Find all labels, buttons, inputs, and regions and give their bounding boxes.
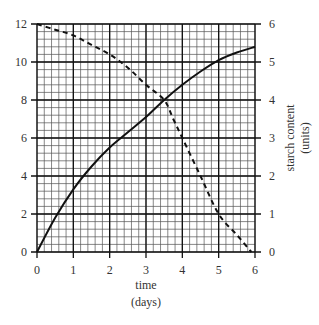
x-tick-label: 2	[107, 263, 113, 277]
y-tick-label: 10	[15, 55, 27, 69]
x-tick-label: 3	[143, 263, 149, 277]
y2-axis-label: starch content	[283, 104, 297, 172]
y2-tick-label: 6	[269, 17, 275, 31]
x-axis-label: time	[135, 278, 156, 292]
y2-tick-label: 1	[269, 207, 275, 221]
y2-tick-label: 2	[269, 169, 275, 183]
y2-tick-label: 5	[269, 55, 275, 69]
y2-tick-label: 3	[269, 131, 275, 145]
y-tick-label: 6	[21, 131, 27, 145]
x-tick-label: 6	[252, 263, 258, 277]
y2-tick-label: 0	[269, 245, 275, 259]
x-axis-units: (days)	[131, 295, 161, 309]
axis-ticks: 01234560246810120123456	[15, 17, 275, 277]
y-tick-label: 4	[21, 169, 27, 183]
y-tick-label: 8	[21, 93, 27, 107]
x-tick-label: 4	[179, 263, 185, 277]
y-tick-label: 12	[15, 17, 27, 31]
x-tick-label: 5	[216, 263, 222, 277]
y2-axis-units: (units)	[298, 122, 312, 153]
chart: 01234560246810120123456 time (days) star…	[0, 0, 319, 325]
y-tick-label: 2	[21, 207, 27, 221]
y2-tick-label: 4	[269, 93, 275, 107]
x-tick-label: 1	[70, 263, 76, 277]
x-tick-label: 0	[34, 263, 40, 277]
y-tick-label: 0	[21, 245, 27, 259]
